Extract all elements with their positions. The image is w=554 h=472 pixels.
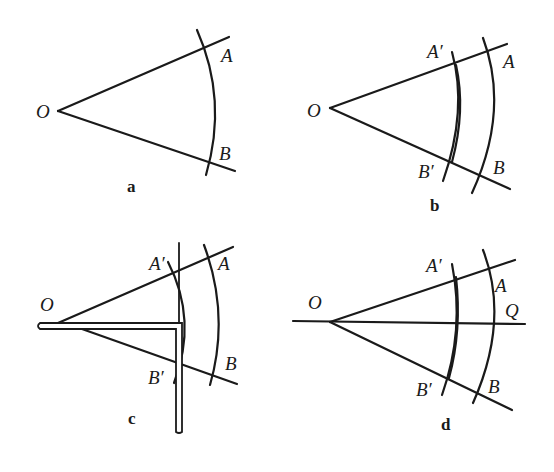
label-b: B [219, 143, 231, 164]
arc-ab [204, 245, 219, 385]
panel-a: O A B a [36, 30, 235, 196]
panel-b: O A′ A B′ B b [307, 38, 515, 215]
label-b: B [225, 353, 237, 374]
bisector-oq [293, 321, 525, 324]
label-b: B [488, 376, 500, 397]
label-q: Q [505, 300, 519, 321]
label-a: A [216, 253, 230, 274]
ray-oa [58, 247, 233, 323]
label-a-prime: A′ [425, 41, 444, 62]
panel-c: O A′ A B′ B c [38, 243, 237, 433]
ray-oa [330, 260, 515, 322]
label-b-prime: B′ [418, 161, 435, 182]
caption-c: c [128, 409, 136, 428]
caption-d: d [441, 415, 451, 434]
panel-d: O A′ A Q B′ B d [293, 250, 525, 434]
arc-ab [472, 38, 494, 193]
caption-a: a [127, 177, 136, 196]
label-a: A [219, 45, 233, 66]
ray-oa [330, 44, 507, 108]
label-o: O [40, 294, 54, 315]
label-a-prime: A′ [147, 253, 166, 274]
label-a: A [501, 51, 515, 72]
label-a: A [493, 275, 507, 296]
label-o: O [36, 101, 50, 122]
label-o: O [307, 100, 321, 121]
label-o: O [308, 292, 322, 313]
arc-ab [197, 30, 215, 175]
label-b-prime: B′ [148, 367, 165, 388]
caption-b: b [430, 196, 439, 215]
label-b-prime: B′ [416, 379, 433, 400]
label-a-prime: A′ [424, 255, 443, 276]
label-b: B [493, 157, 505, 178]
angle-bisection-diagram: O A B a O A′ A B′ B b O A′ A B′ B c [0, 0, 554, 472]
